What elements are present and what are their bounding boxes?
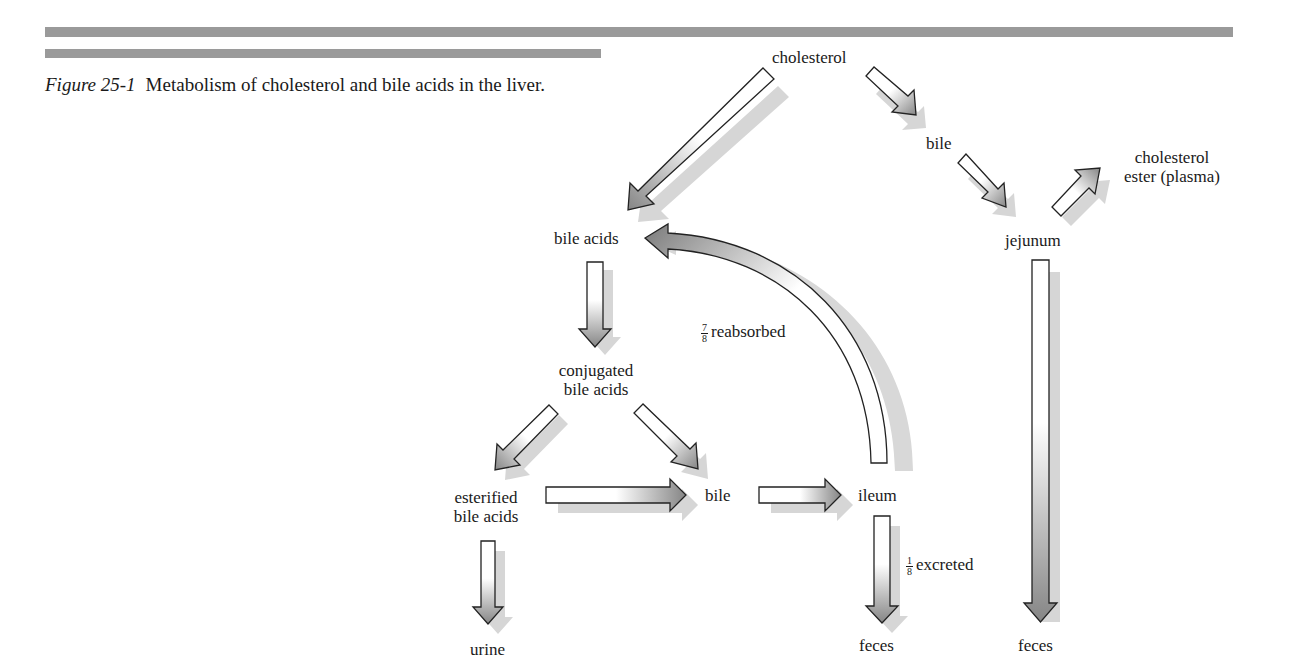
node-esterified-bile-acids: esterified bile acids (438, 488, 534, 526)
edge-label-excreted: 18excreted (906, 555, 974, 577)
arrow-ileum-to-bile-acids-curved (645, 224, 913, 471)
arrow-bile-to-ileum (759, 479, 853, 521)
pathway-diagram (0, 0, 1292, 667)
arrow-bile-to-jejunum (958, 154, 1016, 217)
node-bile-top: bile (926, 134, 952, 153)
node-cholesterol-ester-line1: cholesterol (1112, 148, 1232, 167)
arrow-esterified-to-urine (473, 541, 513, 634)
node-cholesterol: cholesterol (772, 48, 847, 67)
arrow-cholesterol-to-bile-acids (628, 68, 789, 222)
fraction-seven-eighths: 78 (701, 323, 708, 344)
arrow-cholesterol-to-bile (866, 67, 926, 130)
node-ileum: ileum (858, 486, 897, 505)
node-feces-jejunum: feces (1018, 636, 1053, 655)
node-cholesterol-ester: cholesterol ester (plasma) (1112, 148, 1232, 186)
node-cholesterol-ester-line2: ester (plasma) (1112, 167, 1232, 186)
arrow-bile-acids-to-conjugated (579, 262, 621, 355)
node-esterified-line1: esterified (438, 488, 534, 507)
node-feces-ileum: feces (859, 636, 894, 655)
node-bile-mid: bile (705, 486, 731, 505)
node-jejunum: jejunum (1005, 231, 1061, 250)
edge-label-reabsorbed: 78reabsorbed (701, 322, 786, 344)
node-conjugated-line2: bile acids (546, 380, 646, 399)
arrow-esterified-to-bile (546, 479, 698, 521)
fraction-one-eighth: 18 (906, 556, 913, 577)
arrow-conjugated-to-esterified (495, 405, 568, 480)
arrow-conjugated-to-bile (634, 404, 708, 479)
node-conjugated-bile-acids: conjugated bile acids (546, 361, 646, 399)
node-conjugated-line1: conjugated (546, 361, 646, 380)
node-bile-acids: bile acids (554, 229, 619, 248)
arrow-jejunum-to-cholesterol-ester (1052, 168, 1110, 226)
node-urine: urine (470, 640, 505, 659)
arrow-jejunum-to-feces (1024, 260, 1060, 622)
node-esterified-line2: bile acids (438, 507, 534, 526)
arrow-ileum-to-feces (866, 516, 908, 633)
